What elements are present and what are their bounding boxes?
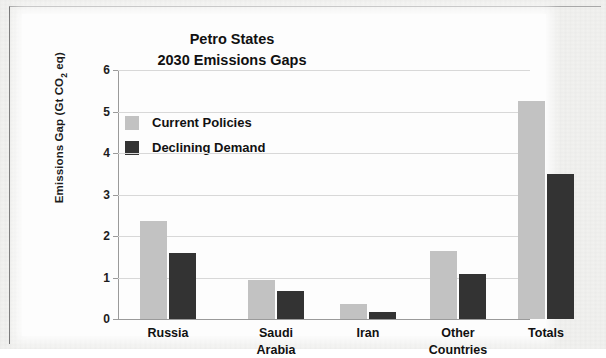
x-axis-label: Saudi Arabia (226, 325, 326, 358)
y-axis-title-subscript: 2 (59, 73, 69, 78)
y-tick-label-5: 5 (92, 105, 110, 119)
plot-area: 0123456 RussiaSaudi ArabiaIranOther Coun… (118, 35, 530, 319)
y-tick-label-6: 6 (92, 63, 110, 77)
y-tickmark-1 (113, 278, 118, 279)
x-axis-label: Totals (496, 325, 596, 342)
gridline-4 (118, 153, 530, 154)
y-tickmark-4 (113, 153, 118, 154)
x-axis-label: Other Countries (408, 325, 508, 358)
gridline-5 (118, 112, 530, 113)
bar (248, 280, 275, 319)
bar (547, 174, 574, 319)
x-axis-label: Iran (318, 325, 418, 342)
bar (169, 253, 196, 319)
y-tickmark-6 (113, 70, 118, 71)
y-tick-label-0: 0 (92, 312, 110, 326)
y-tickmark-3 (113, 195, 118, 196)
y-axis-title-prefix: Emissions Gap (Gt CO (53, 78, 65, 203)
y-tick-label-4: 4 (92, 146, 110, 160)
gridline-2 (118, 236, 530, 237)
y-tickmark-0 (113, 319, 118, 320)
bar (430, 251, 457, 319)
y-tick-label-2: 2 (92, 229, 110, 243)
bar (459, 274, 486, 319)
x-axis-label: Russia (118, 325, 218, 342)
bar (277, 291, 304, 319)
chart-figure: Emissions Gap (Gt CO2 eq) Petro States 2… (22, 14, 546, 336)
y-axis-title: Emissions Gap (Gt CO2 eq) (53, 33, 68, 223)
y-tickmark-5 (113, 112, 118, 113)
gridline-0 (118, 319, 530, 320)
y-tick-label-1: 1 (92, 271, 110, 285)
bar (518, 101, 545, 319)
bar (369, 312, 396, 319)
gridline-6 (118, 70, 530, 71)
y-tick-label-3: 3 (92, 188, 110, 202)
bar (340, 304, 367, 319)
y-tickmark-2 (113, 236, 118, 237)
y-axis-title-suffix: eq) (53, 52, 65, 73)
gridline-3 (118, 195, 530, 196)
bar (140, 221, 167, 319)
